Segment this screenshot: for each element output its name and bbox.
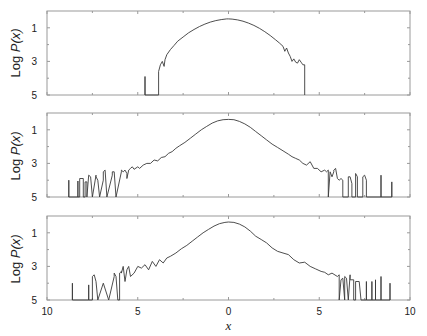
x-tick-label: 5 xyxy=(316,306,322,317)
panel-top: 135 xyxy=(31,11,410,101)
panel-middle: 135 xyxy=(31,113,410,203)
y-tick-label: 3 xyxy=(31,261,37,272)
panels: 135135135 xyxy=(31,11,410,306)
y-tick-label: 5 xyxy=(31,192,37,203)
distribution-line xyxy=(145,19,305,95)
distribution-line xyxy=(69,119,392,197)
x-tick-labels: 10 5 0 5 10 xyxy=(41,306,416,317)
y-tick-label: 5 xyxy=(31,295,37,306)
y-tick-label: 1 xyxy=(31,23,37,34)
y-tick-label: 3 xyxy=(31,56,37,67)
panel-bottom: 135 xyxy=(31,216,410,306)
svg-text:Log P(x): Log P(x) xyxy=(8,234,23,283)
y-axis-label-bottom: Log P(x) xyxy=(8,234,23,283)
x-tick-label: 5 xyxy=(135,306,141,317)
y-axis-label-top: Log P(x) xyxy=(8,28,23,77)
distribution-line xyxy=(72,222,390,300)
y-tick-label: 5 xyxy=(31,90,37,101)
y-tick-label: 1 xyxy=(31,228,37,239)
plot-frame xyxy=(47,11,410,95)
y-tick-label: 3 xyxy=(31,158,37,169)
svg-text:Log P(x): Log P(x) xyxy=(8,28,23,77)
figure: 135135135 Log P(x) Log P(x) Log P(x) 10 … xyxy=(0,0,427,336)
y-axis-label-middle: Log P(x) xyxy=(8,131,23,180)
x-tick-label: 10 xyxy=(41,306,53,317)
chart-canvas: 135135135 Log P(x) Log P(x) Log P(x) 10 … xyxy=(0,0,427,336)
x-tick-label: 10 xyxy=(404,306,416,317)
y-tick-label: 1 xyxy=(31,125,37,136)
x-axis-label: x xyxy=(225,318,232,333)
svg-text:Log P(x): Log P(x) xyxy=(8,131,23,180)
x-tick-label: 0 xyxy=(226,306,232,317)
